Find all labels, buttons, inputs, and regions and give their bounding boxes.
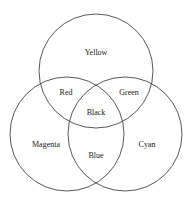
label-blue: Blue: [88, 151, 104, 160]
label-red: Red: [60, 88, 73, 97]
label-cyan: Cyan: [139, 140, 156, 149]
label-green: Green: [119, 88, 139, 97]
label-yellow: Yellow: [85, 48, 108, 57]
label-magenta: Magenta: [32, 140, 60, 149]
label-black: Black: [87, 108, 106, 117]
venn-diagram: Yellow Red Green Black Magenta Cyan Blue: [0, 0, 189, 203]
